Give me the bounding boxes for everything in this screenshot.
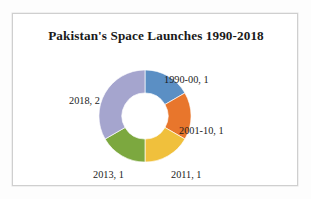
doughnut-chart: 1990-00, 1 2001-10, 1 2011, 1 2013, 1 20… [13,14,299,187]
data-label-2001-10: 2001-10, 1 [179,125,224,136]
data-label-2018: 2018, 2 [69,95,100,106]
chart-figure: Pakistan's Space Launches 1990-2018 1990… [0,0,311,199]
data-label-2013: 2013, 1 [93,169,124,180]
data-label-2011: 2011, 1 [171,169,202,180]
chart-frame: Pakistan's Space Launches 1990-2018 1990… [12,13,298,186]
slice-2018[interactable] [99,70,145,139]
data-label-1990-00: 1990-00, 1 [164,74,209,85]
